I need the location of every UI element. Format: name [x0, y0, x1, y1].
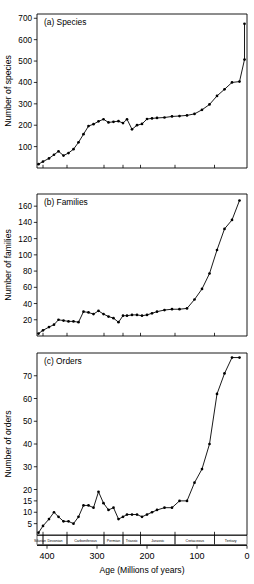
data-point-marker [131, 128, 134, 131]
data-point-marker [178, 115, 181, 118]
y-tick-label: 120 [18, 235, 32, 244]
data-point-marker [62, 520, 65, 523]
y-tick-label: 500 [18, 57, 32, 66]
data-point-marker [156, 117, 159, 120]
data-point-marker [97, 310, 100, 313]
data-point-marker [151, 117, 154, 120]
panel-title: (b) Families [44, 197, 88, 207]
y-axis-title: Number of families [3, 229, 13, 301]
data-point-marker [62, 319, 65, 322]
data-point-marker [186, 114, 189, 117]
data-point-marker [243, 22, 246, 25]
diversity-through-time-figure: 100200300400500600700(a) SpeciesNumber o… [0, 0, 254, 584]
data-point-marker [208, 103, 211, 106]
y-tick-label: 20 [23, 316, 33, 325]
data-point-marker [67, 320, 70, 323]
x-tick-label: 200 [139, 551, 154, 561]
data-point-marker [243, 58, 246, 61]
data-point-marker [151, 511, 154, 514]
panel-species: 100200300400500600700(a) SpeciesNumber o… [0, 0, 254, 186]
data-point-marker [201, 108, 204, 111]
data-point-marker [208, 272, 211, 275]
data-point-marker [136, 314, 139, 317]
data-point-marker [72, 320, 75, 323]
y-tick-label: 80 [23, 267, 33, 276]
period-label: Devonian [47, 539, 62, 543]
y-tick-label: 15 [23, 497, 33, 506]
y-tick-label: 30 [23, 463, 33, 472]
data-point-marker [136, 513, 139, 516]
panel-title: (a) Species [44, 17, 86, 27]
data-point-marker [163, 506, 166, 509]
data-point-marker [37, 332, 40, 335]
data-point-marker [37, 531, 40, 534]
data-point-marker [53, 511, 56, 514]
data-point-marker [223, 228, 226, 231]
data-point-marker [67, 520, 70, 523]
data-point-marker [102, 118, 105, 121]
data-point-marker [163, 309, 166, 312]
data-point-marker [163, 116, 166, 119]
y-tick-label: 100 [18, 251, 32, 260]
data-point-marker [231, 219, 234, 222]
data-point-marker [141, 515, 144, 518]
data-point-marker [87, 311, 90, 314]
data-point-marker [48, 157, 51, 160]
y-tick-label: 40 [23, 300, 33, 309]
data-point-marker [57, 150, 60, 153]
y-tick-label: 40 [23, 440, 33, 449]
y-tick-label: 700 [18, 14, 32, 23]
data-point-marker [201, 468, 204, 471]
data-point-marker [216, 393, 219, 396]
y-tick-label: 600 [18, 36, 32, 45]
y-tick-label: 160 [18, 202, 32, 211]
data-point-marker [122, 314, 125, 317]
y-axis-title: Number of species [3, 55, 13, 127]
period-label: Silurian [34, 539, 46, 543]
data-point-marker [107, 121, 110, 124]
y-tick-label: 60 [23, 283, 33, 292]
data-point-marker [126, 513, 129, 516]
data-point-marker [107, 315, 110, 318]
period-label: Permian [107, 539, 120, 543]
period-label: Carboniferous [74, 539, 97, 543]
data-point-marker [57, 318, 60, 321]
period-label: Tertiary [225, 539, 237, 543]
data-point-marker [67, 152, 70, 155]
data-point-marker [117, 518, 120, 521]
data-point-marker [146, 314, 149, 317]
data-series-line [39, 24, 245, 164]
data-point-marker [82, 133, 85, 136]
data-point-marker [156, 310, 159, 313]
y-tick-label: 100 [18, 143, 32, 152]
data-point-marker [112, 317, 115, 320]
x-axis-title: Age (Millions of years) [99, 565, 184, 575]
data-point-marker [107, 509, 110, 512]
data-point-marker [223, 88, 226, 91]
data-point-marker [216, 249, 219, 252]
data-point-marker [92, 506, 95, 509]
y-tick-label: 20 [23, 486, 33, 495]
data-point-marker [171, 115, 174, 118]
data-point-marker [72, 148, 75, 151]
data-point-marker [102, 313, 105, 316]
data-point-marker [126, 118, 129, 121]
y-tick-label: 200 [18, 121, 32, 130]
data-point-marker [151, 312, 154, 315]
data-point-marker [126, 314, 129, 317]
period-label: Jurassic [151, 539, 164, 543]
data-point-marker [53, 153, 56, 156]
data-point-marker [77, 141, 80, 144]
data-point-marker [117, 120, 120, 123]
x-tick-label: 100 [189, 551, 204, 561]
data-point-marker [122, 122, 125, 125]
data-point-marker [216, 95, 219, 98]
data-point-marker [87, 504, 90, 507]
data-point-marker [193, 298, 196, 301]
x-tick-label: 300 [89, 551, 104, 561]
data-point-marker [238, 80, 241, 83]
y-tick-label: 60 [23, 395, 33, 404]
data-point-marker [141, 123, 144, 126]
data-point-marker [117, 321, 120, 324]
panel-families-plot: 20406080100120140160(b) FamiliesNumber o… [0, 186, 254, 345]
